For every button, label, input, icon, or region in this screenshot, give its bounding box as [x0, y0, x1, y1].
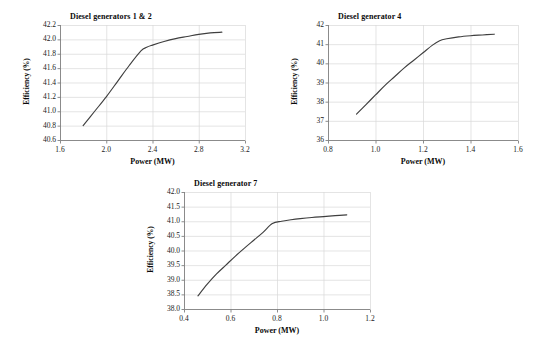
x-tick-label: 2.8: [186, 145, 212, 154]
x-tick-label: 1.4: [458, 145, 484, 154]
chart-panel-diesel-generator-7: Diesel generator 738.038.539.039.540.040…: [140, 178, 390, 353]
y-axis-label: Efficiency (%): [290, 24, 299, 139]
x-tick-label: 0.6: [218, 314, 244, 323]
x-tick-label: 1.0: [363, 145, 389, 154]
x-tick-label: 2.4: [140, 145, 166, 154]
y-axis-label: Efficiency (%): [146, 191, 155, 308]
x-tick-label: 0.4: [171, 314, 197, 323]
plot-area: [288, 8, 532, 144]
x-tick-label: 1.2: [357, 314, 383, 323]
x-axis-label: Power (MW): [184, 326, 370, 335]
x-axis-label: Power (MW): [60, 157, 245, 166]
x-tick-label: 0.8: [264, 314, 290, 323]
y-axis-label: Efficiency (%): [22, 24, 31, 139]
chart-panel-diesel-generators-1-2: Diesel generators 1 & 240.640.841.041.24…: [18, 8, 258, 180]
x-tick-label: 2.0: [93, 145, 119, 154]
x-axis-label: Power (MW): [328, 157, 518, 166]
x-tick-label: 0.8: [315, 145, 341, 154]
x-tick-label: 1.6: [505, 145, 531, 154]
x-tick-label: 3.2: [232, 145, 258, 154]
x-tick-label: 1.6: [47, 145, 73, 154]
x-tick-label: 1.2: [410, 145, 436, 154]
x-tick-label: 1.0: [311, 314, 337, 323]
chart-panel-diesel-generator-4: Diesel generator 4363738394041420.81.01.…: [288, 8, 538, 180]
